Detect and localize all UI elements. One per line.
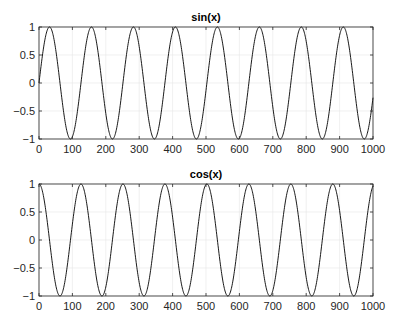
x-tick-label: 500 [197, 300, 215, 312]
y-tick-label: 0 [29, 234, 35, 246]
cos-y-tick-labels: −1−0.500.51 [13, 178, 35, 302]
y-tick-label: 1 [29, 178, 35, 190]
x-tick-label: 300 [130, 143, 148, 155]
sin-y-tick-labels: −1−0.500.51 [13, 21, 35, 145]
y-tick-label: 0 [29, 77, 35, 89]
y-tick-label: −1 [22, 133, 35, 145]
x-tick-label: 600 [230, 300, 248, 312]
x-tick-label: 0 [36, 143, 42, 155]
x-tick-label: 200 [97, 300, 115, 312]
x-tick-label: 900 [330, 143, 348, 155]
x-tick-label: 400 [163, 143, 181, 155]
x-tick-label: 100 [63, 300, 81, 312]
x-tick-label: 200 [97, 143, 115, 155]
cos-grid [39, 184, 373, 296]
x-tick-label: 100 [63, 143, 81, 155]
x-tick-label: 700 [264, 143, 282, 155]
x-tick-label: 1000 [361, 143, 385, 155]
figure: sin(x) 01002003004005006007008009001000 … [0, 0, 397, 329]
x-tick-label: 800 [297, 143, 315, 155]
x-tick-label: 300 [130, 300, 148, 312]
x-tick-label: 0 [36, 300, 42, 312]
sin-title: sin(x) [191, 11, 221, 23]
y-tick-label: −0.5 [13, 105, 35, 117]
x-tick-label: 1000 [361, 300, 385, 312]
y-tick-label: −0.5 [13, 262, 35, 274]
sin-grid [39, 27, 373, 139]
y-tick-label: 0.5 [20, 206, 35, 218]
x-tick-label: 600 [230, 143, 248, 155]
x-tick-label: 800 [297, 300, 315, 312]
cos-subplot: cos(x) 01002003004005006007008009001000 … [13, 168, 385, 312]
y-tick-label: 1 [29, 21, 35, 33]
x-tick-label: 700 [264, 300, 282, 312]
y-tick-label: −1 [22, 290, 35, 302]
x-tick-label: 400 [163, 300, 181, 312]
sin-x-tick-labels: 01002003004005006007008009001000 [36, 143, 385, 155]
y-tick-label: 0.5 [20, 49, 35, 61]
sin-subplot: sin(x) 01002003004005006007008009001000 … [13, 11, 385, 155]
cos-x-tick-labels: 01002003004005006007008009001000 [36, 300, 385, 312]
cos-title: cos(x) [190, 168, 223, 180]
x-tick-label: 900 [330, 300, 348, 312]
x-tick-label: 500 [197, 143, 215, 155]
